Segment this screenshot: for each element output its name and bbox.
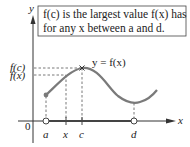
y-tick-fx: f(x) [10,69,26,82]
caption-line-1: f(c) is the largest value f(x) has [43,8,187,21]
curve-label: y = f(x) [92,56,126,69]
x-axis-arrow-icon [166,119,176,124]
caption-line-2: for any x between a and d. [43,22,165,35]
x-tick-d: d [131,128,137,140]
x-axis-label: x [177,114,183,126]
x-tick-a: a [43,128,49,140]
x-tick-x: x [62,128,68,140]
x-tick-c: c [79,128,84,140]
open-endpoint-d [131,118,137,124]
curve-start-point [44,93,49,98]
origin-label: 0 [25,120,31,132]
function-curve [46,68,157,103]
y-axis-label: y [28,2,34,14]
y-axis-arrow-icon [31,15,36,24]
max-value-diagram: f(c) is the largest value f(x) has for a… [0,0,190,147]
open-endpoint-a [43,118,49,124]
